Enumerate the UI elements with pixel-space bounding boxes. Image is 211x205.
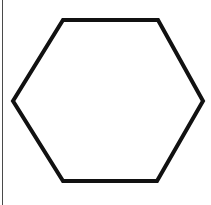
hexagon-figure xyxy=(0,0,211,205)
hexagon-shape xyxy=(13,20,203,181)
drawing-canvas xyxy=(0,0,211,205)
